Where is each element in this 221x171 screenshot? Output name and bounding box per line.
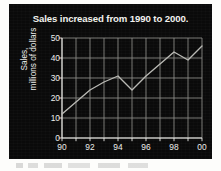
y-tick-label: 0	[38, 134, 60, 142]
y-tick-label: 10	[38, 114, 60, 122]
y-axis-label-line1: Sales,	[20, 48, 29, 71]
x-tick-label: 98	[161, 143, 187, 151]
plot-area	[62, 38, 202, 138]
y-tick-label: 30	[38, 74, 60, 82]
y-tick-label: 50	[38, 34, 60, 42]
caption-smudge	[16, 163, 166, 168]
x-tick-label: 92	[77, 143, 103, 151]
y-tick-label: 40	[38, 54, 60, 62]
y-axis-ticks: 01020304050	[36, 38, 60, 138]
x-tick-label: 90	[49, 143, 75, 151]
x-tick-label: 00	[189, 143, 212, 151]
y-tick-label: 20	[38, 94, 60, 102]
x-tick-label: 94	[105, 143, 131, 151]
chart-title: Sales increased from 1990 to 2000.	[9, 13, 212, 24]
gridlines	[62, 38, 202, 138]
plot-svg	[62, 38, 202, 138]
chart-panel: Sales increased from 1990 to 2000. Sales…	[9, 4, 212, 159]
x-axis-ticks: 909294969800	[62, 143, 202, 155]
figure: Sales increased from 1990 to 2000. Sales…	[0, 0, 221, 171]
axis-tick-marks	[59, 38, 202, 141]
x-tick-label: 96	[133, 143, 159, 151]
